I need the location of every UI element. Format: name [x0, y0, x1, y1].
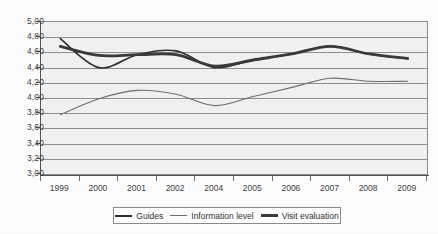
series-layer: [41, 22, 427, 174]
legend-line-icon-guides: [115, 215, 132, 217]
y-axis-tick: [36, 173, 41, 174]
y-axis-tick: [36, 51, 41, 52]
x-axis-tick: [426, 176, 427, 181]
x-axis-tick-label: 1999: [39, 183, 79, 193]
x-axis-tick: [156, 176, 157, 181]
x-axis-tick-label: 2002: [155, 183, 195, 193]
x-axis-tick: [79, 176, 80, 181]
x-axis-tick-label: 2005: [232, 183, 272, 193]
legend-line-icon-visit-evaluation: [261, 214, 278, 217]
y-axis-tick: [36, 112, 41, 113]
x-axis-tick: [40, 176, 41, 181]
x-axis-tick: [349, 176, 350, 181]
x-axis-tick: [387, 176, 388, 181]
line-chart: 5,004,804,604,404,204,003,803,603,403,20…: [0, 0, 438, 234]
legend-line-icon-information-level: [170, 215, 187, 217]
y-axis-tick: [36, 158, 41, 159]
x-axis-tick-label: 2006: [271, 183, 311, 193]
y-axis-tick: [36, 97, 41, 98]
legend-item-visit-evaluation: Visit evaluation: [261, 211, 339, 221]
x-axis-tick: [272, 176, 273, 181]
legend-label-information-level: Information level: [191, 211, 253, 221]
legend-item-guides: Guides: [115, 211, 163, 221]
y-axis-tick: [36, 36, 41, 37]
x-axis-tick-label: 2004: [194, 183, 234, 193]
x-axis-tick: [233, 176, 234, 181]
chart-legend: Guides Information level Visit evaluatio…: [113, 207, 341, 224]
series-line-visit-evaluation: [60, 46, 407, 66]
x-axis-tick-label: 2000: [78, 183, 118, 193]
x-axis-tick-label: 2009: [387, 183, 427, 193]
y-axis-tick: [36, 143, 41, 144]
y-axis-tick: [36, 127, 41, 128]
plot-area: [40, 21, 428, 175]
legend-item-information-level: Information level: [170, 211, 253, 221]
series-line-information-level: [60, 78, 407, 115]
x-axis-tick-label: 2001: [117, 183, 157, 193]
x-axis-tick-label: 2007: [310, 183, 350, 193]
x-axis-tick: [194, 176, 195, 181]
x-axis-tick: [117, 176, 118, 181]
y-axis-tick: [36, 67, 41, 68]
x-axis: [40, 175, 429, 176]
legend-label-guides: Guides: [136, 211, 163, 221]
legend-label-visit-evaluation: Visit evaluation: [282, 211, 339, 221]
y-axis-tick: [36, 82, 41, 83]
x-axis-tick-label: 2008: [348, 183, 388, 193]
x-axis-tick: [310, 176, 311, 181]
y-axis-tick: [36, 21, 41, 22]
